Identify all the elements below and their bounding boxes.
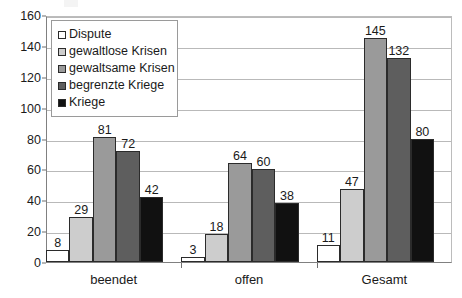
y-axis-tick-label: 40: [0, 195, 41, 208]
bar: [228, 163, 252, 262]
bar-value-label: 29: [74, 204, 88, 217]
legend-item: Dispute: [58, 26, 173, 43]
chart-legend: Disputegewaltlose Krisengewaltsame Krise…: [51, 20, 178, 117]
x-axis-category-label: beendet: [90, 273, 137, 286]
legend-item-label: gewaltsame Krisen: [69, 62, 175, 75]
bar-value-label: 132: [388, 45, 409, 58]
bar-value-label: 64: [233, 150, 247, 163]
bar: [364, 38, 388, 262]
legend-item-label: begrenzte Kriege: [69, 79, 164, 92]
bar-value-label: 3: [190, 244, 197, 257]
bar: [252, 169, 276, 262]
bar-value-label: 11: [322, 232, 335, 245]
bar-value-label: 81: [98, 124, 112, 137]
y-axis-tick-label: 80: [0, 133, 41, 146]
bar: [46, 250, 70, 262]
bar-value-label: 60: [257, 156, 271, 169]
bar-value-label: 72: [121, 138, 135, 151]
bar-value-label: 18: [210, 221, 224, 234]
bar-value-label: 47: [345, 176, 359, 189]
legend-swatch-icon: [58, 65, 66, 73]
bar: [93, 137, 117, 262]
bar-value-label: 8: [54, 237, 61, 250]
legend-item: gewaltlose Krisen: [58, 43, 173, 60]
gridline: [47, 17, 451, 18]
x-axis-tick-mark: [181, 263, 182, 268]
bar: [411, 139, 435, 263]
y-axis-tick-label: 140: [0, 41, 41, 54]
bar: [116, 151, 140, 262]
legend-item: Kriege: [58, 94, 173, 111]
bar: [387, 58, 411, 262]
y-axis-tick-label: 120: [0, 72, 41, 85]
legend-item-label: Dispute: [69, 28, 111, 41]
legend-swatch-icon: [58, 31, 66, 39]
x-axis-category-label: Gesamt: [362, 273, 408, 286]
bar-value-label: 145: [365, 25, 386, 38]
y-axis-tick-label: 20: [0, 226, 41, 239]
bar-value-label: 38: [280, 190, 294, 203]
legend-item: begrenzte Kriege: [58, 77, 173, 94]
bar: [140, 197, 164, 262]
y-axis-tick-label: 160: [0, 10, 41, 23]
legend-item-label: gewaltlose Krisen: [69, 45, 167, 58]
legend-item-label: Kriege: [69, 96, 105, 109]
bar: [275, 203, 299, 262]
bar: [69, 217, 93, 262]
y-axis-tick-label: 100: [0, 102, 41, 115]
bar-value-label: 80: [415, 126, 429, 139]
bar: [340, 189, 364, 262]
legend-item: gewaltsame Krisen: [58, 60, 173, 77]
y-axis-tick-label: 60: [0, 164, 41, 177]
bar-chart: 020406080100120140160 829817242318646038…: [0, 0, 462, 298]
y-axis-tick-label: 0: [0, 257, 41, 270]
bar-value-label: 42: [145, 184, 159, 197]
x-axis-category-label: offen: [235, 273, 264, 286]
bar: [317, 245, 341, 262]
legend-swatch-icon: [58, 99, 66, 107]
legend-swatch-icon: [58, 82, 66, 90]
bar: [181, 257, 205, 262]
bar: [205, 234, 229, 262]
scan-artifact: [64, 0, 78, 7]
x-axis-tick-mark: [317, 263, 318, 268]
legend-swatch-icon: [58, 48, 66, 56]
